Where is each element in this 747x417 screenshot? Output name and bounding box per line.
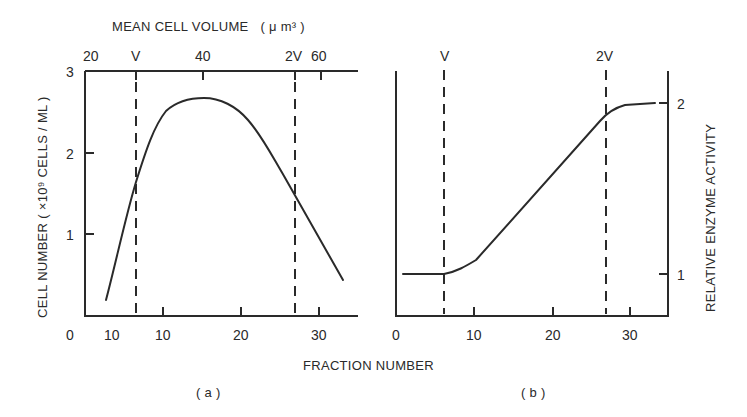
top-tick-label: V (131, 48, 141, 64)
panel-b-y-ticks (659, 103, 668, 274)
svg-text:2: 2 (677, 96, 685, 112)
svg-text:0: 0 (392, 327, 400, 343)
svg-text:3: 3 (66, 64, 74, 80)
panel-a-axes (85, 71, 358, 316)
svg-text:20: 20 (233, 327, 249, 343)
panel-a-y-ticks (85, 153, 94, 234)
panel-b-y-axis-label: RELATIVE ENZYME ACTIVITY (703, 124, 718, 312)
svg-text:30: 30 (622, 327, 638, 343)
panel-b-y-tick-labels: 1 2 (677, 96, 685, 283)
shared-x-axis-label: FRACTION NUMBER (303, 358, 434, 373)
panel-a-y-axis-label: CELL NUMBER ( ×10⁹ CELLS / ML ) (35, 96, 50, 318)
panel-b-axes (396, 71, 668, 316)
panel-b-caption: ( b ) (521, 385, 546, 400)
svg-text:0: 0 (66, 327, 74, 343)
panel-a-cell-number-curve (106, 98, 343, 300)
panel-b-top-markers: V 2V (440, 48, 614, 64)
svg-text:V: V (440, 48, 450, 64)
svg-text:2: 2 (66, 146, 74, 162)
panel-a-y-tick-labels: 0 1 2 3 (66, 64, 74, 343)
top-tick-label: 40 (195, 48, 211, 64)
svg-text:1: 1 (66, 227, 74, 243)
svg-text:20: 20 (545, 327, 561, 343)
svg-text:30: 30 (311, 327, 327, 343)
panel-a-top-tick-labels: 20 V 40 2V 60 (83, 48, 327, 64)
figure: MEAN CELL VOLUME ( μ m³ ) 20 V 40 2V 60 … (0, 0, 747, 417)
panel-a: 20 V 40 2V 60 0 1 2 3 10 10 20 30 (35, 48, 358, 400)
panel-a-caption: ( a ) (196, 385, 221, 400)
svg-text:10: 10 (466, 327, 482, 343)
top-tick-label: 2V (285, 48, 303, 64)
panel-b-enzyme-activity-curve (403, 103, 655, 274)
svg-text:10: 10 (104, 327, 120, 343)
panel-a-x-tick-labels: 10 10 20 30 (104, 327, 327, 343)
panel-a-top-ticks (136, 71, 321, 80)
svg-text:10: 10 (155, 327, 171, 343)
panel-b-x-tick-labels: 0 10 20 30 (392, 327, 638, 343)
top-tick-label: 20 (83, 48, 99, 64)
svg-text:1: 1 (677, 267, 685, 283)
top-tick-label: 60 (311, 48, 327, 64)
svg-text:2V: 2V (596, 48, 614, 64)
panel-b: V 2V 0 10 20 30 1 2 RELATIVE (392, 48, 718, 400)
top-axis-title: MEAN CELL VOLUME ( μ m³ ) (112, 19, 305, 34)
